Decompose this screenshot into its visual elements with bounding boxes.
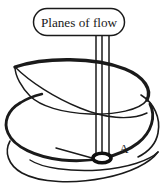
helix-loop-top xyxy=(15,60,149,100)
planes-of-flow-figure: Planes of flow A xyxy=(0,0,165,193)
helix-loop-middle xyxy=(6,103,153,161)
point-a-label-text: A xyxy=(119,141,129,156)
helix-loop-top-back xyxy=(15,67,147,114)
diagram-canvas: Planes of flow A xyxy=(0,0,165,193)
helix-spiral-path xyxy=(6,60,159,182)
plane-of-flow-lines xyxy=(96,36,109,157)
helix-tail-stub xyxy=(56,148,92,158)
point-a-marker xyxy=(93,153,111,163)
callout-label-text: Planes of flow xyxy=(41,15,118,30)
helix-right-outer-arc xyxy=(138,95,159,157)
